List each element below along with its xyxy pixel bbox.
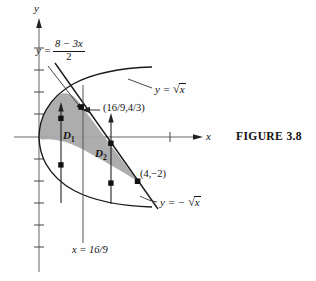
y-axis-arrowhead bbox=[36, 18, 42, 28]
sample-strip-d2-bottom-point bbox=[108, 180, 113, 185]
point-label-top: (16/9,4/3) bbox=[103, 103, 145, 114]
region-label-d2-subscript: 2 bbox=[103, 153, 107, 162]
negative-square-root-icon: √x bbox=[187, 196, 200, 208]
intersection-point-top bbox=[78, 104, 84, 110]
line-equation-fraction: 8 − 3x 2 bbox=[53, 39, 85, 62]
divider-line-label: x = 16/9 bbox=[72, 245, 108, 256]
sample-strip-d1 bbox=[58, 102, 64, 203]
upper-curve-leader bbox=[128, 79, 152, 88]
upper-curve-lhs: y = bbox=[155, 84, 170, 95]
lower-curve-lhs: y = − bbox=[160, 197, 185, 208]
line-equation-label: y = 8 − 3x 2 bbox=[36, 39, 85, 62]
upper-curve-radicand: x bbox=[179, 83, 186, 95]
region-label-d1: D1 bbox=[63, 130, 75, 144]
lower-curve-leader bbox=[140, 196, 157, 202]
figure-3-8: y x y = 8 − 3x 2 y = √x y = − √x bbox=[0, 0, 316, 281]
lower-curve-radicand: x bbox=[194, 196, 201, 208]
line-equation-lhs: y = bbox=[36, 45, 51, 56]
region-label-d1-subscript: 1 bbox=[71, 135, 75, 144]
region-label-d2-letter: D bbox=[95, 147, 103, 159]
upper-curve-label: y = √x bbox=[155, 83, 186, 95]
line-equation-denominator: 2 bbox=[53, 52, 85, 63]
sample-strip-d1-top-point bbox=[58, 116, 63, 121]
square-root-icon: √x bbox=[172, 83, 185, 95]
line-equation-numerator: 8 − 3x bbox=[53, 39, 85, 50]
y-axis-label: y bbox=[34, 3, 39, 14]
sample-strip-d2-arrowhead bbox=[108, 113, 113, 123]
figure-caption: FIGURE 3.8 bbox=[236, 131, 302, 143]
region-label-d1-letter: D bbox=[63, 129, 71, 141]
region-label-d2: D2 bbox=[95, 148, 107, 162]
sample-strip-d1-bottom-point bbox=[58, 162, 63, 167]
lower-curve-label: y = − √x bbox=[160, 196, 201, 208]
sample-strip-d2-top-point bbox=[108, 141, 113, 146]
point-label-bottom: (4,−2) bbox=[140, 169, 166, 180]
x-axis-arrowhead bbox=[193, 134, 203, 140]
x-axis-label: x bbox=[206, 131, 211, 142]
